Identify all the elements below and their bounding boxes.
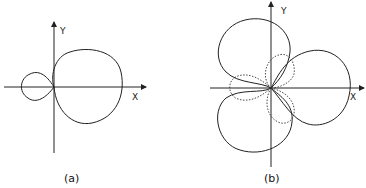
x-axis-label-a: X	[132, 92, 138, 102]
caption-b: (b)	[264, 172, 280, 185]
figure-b	[210, 2, 364, 167]
x-axis-label-b: X	[350, 92, 356, 102]
dotted-lobe-upper	[265, 54, 294, 88]
diagram-canvas	[0, 0, 366, 188]
limacon-inner-loop	[21, 73, 54, 101]
caption-a: (a)	[64, 172, 79, 185]
figure-a	[4, 22, 146, 153]
lobe-lower-left	[218, 88, 293, 152]
lobe-upper-left	[218, 19, 290, 88]
y-axis-label-a: Y	[60, 26, 66, 36]
y-axis-label-b: Y	[281, 6, 287, 16]
